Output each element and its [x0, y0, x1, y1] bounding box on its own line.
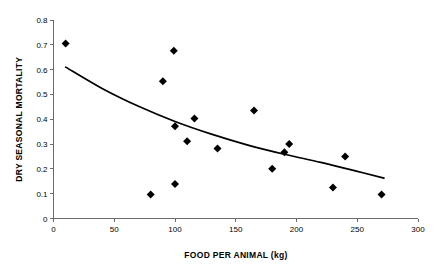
data-point — [171, 180, 179, 188]
y-axis-tick-label: 0.5 — [36, 90, 48, 99]
chart-figure: 00.10.20.30.40.50.60.70.8 05010015020025… — [0, 0, 441, 265]
data-point — [329, 183, 337, 191]
y-axis-tick-label: 0.7 — [36, 41, 48, 50]
data-point-group — [62, 40, 386, 199]
y-axis-tick-label: 0.8 — [36, 16, 48, 25]
y-axis-tick-label: 0.1 — [36, 190, 48, 199]
data-point — [214, 145, 222, 153]
data-point — [378, 190, 386, 198]
x-axis-tick-label: 150 — [229, 225, 243, 234]
y-axis-tick-label: 0 — [43, 215, 48, 224]
x-axis-tick-label: 100 — [168, 225, 182, 234]
x-axis-tick-label: 300 — [411, 225, 425, 234]
data-point — [285, 140, 293, 148]
data-point — [183, 137, 191, 145]
x-axis-tick-label: 200 — [290, 225, 304, 234]
data-point — [170, 47, 178, 55]
trend-line — [66, 67, 384, 178]
data-point — [250, 107, 258, 115]
y-axis-tick-label: 0.3 — [36, 140, 48, 149]
data-point — [341, 152, 349, 160]
x-axis-tick-group: 050100150200250300 — [51, 219, 425, 234]
data-point — [147, 190, 155, 198]
data-point — [62, 40, 70, 48]
x-axis-tick-label: 250 — [351, 225, 365, 234]
y-axis-tick-label: 0.6 — [36, 66, 48, 75]
x-axis-tick-label: 0 — [51, 225, 56, 234]
data-point — [190, 115, 198, 123]
y-axis-title: DRY SEASONAL MORTALITY — [14, 57, 24, 182]
x-axis-tick-label: 50 — [110, 225, 119, 234]
y-axis-tick-label: 0.4 — [36, 115, 48, 124]
data-point — [268, 165, 276, 173]
y-axis-tick-group: 00.10.20.30.40.50.60.70.8 — [36, 16, 53, 224]
data-point — [159, 77, 167, 85]
y-axis-tick-label: 0.2 — [36, 165, 48, 174]
x-axis-title: FOOD PER ANIMAL (kg) — [184, 250, 287, 260]
scatter-plot: 00.10.20.30.40.50.60.70.8 05010015020025… — [0, 0, 441, 265]
